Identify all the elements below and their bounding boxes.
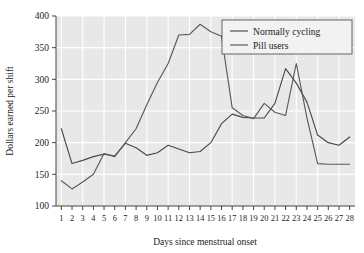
x-tick-label: 16 xyxy=(217,214,225,223)
chart-legend: Normally cycling Pill users xyxy=(222,20,352,54)
x-tick-label: 20 xyxy=(260,214,268,223)
x-tick-label: 28 xyxy=(345,214,353,223)
legend-label-pill-users: Pill users xyxy=(253,40,289,51)
x-tick-label: 7 xyxy=(123,214,127,223)
x-tick-label: 10 xyxy=(153,214,161,223)
chart-figure: 100150200250300350400 123456789101112131… xyxy=(0,0,364,253)
x-tick-label: 21 xyxy=(271,214,279,223)
y-tick-label: 100 xyxy=(35,201,50,211)
y-tick-label: 200 xyxy=(35,138,50,148)
legend-label-normally-cycling: Normally cycling xyxy=(253,26,321,37)
x-tick-label: 13 xyxy=(185,214,193,223)
x-tick-label: 25 xyxy=(313,214,321,223)
x-tick-label: 6 xyxy=(113,214,117,223)
x-tick-label: 3 xyxy=(81,214,85,223)
line-chart: 100150200250300350400 123456789101112131… xyxy=(0,0,364,253)
x-tick-label: 14 xyxy=(196,214,205,223)
x-tick-label: 15 xyxy=(207,214,215,223)
y-axis-title: Dollars earned per shift xyxy=(5,66,15,156)
y-tick-label: 250 xyxy=(35,106,50,116)
x-axis-title: Days since menstrual onset xyxy=(153,237,257,247)
x-tick-label: 27 xyxy=(335,214,343,223)
x-tick-label: 5 xyxy=(102,214,106,223)
x-tick-label: 2 xyxy=(70,214,74,223)
x-tick-label: 9 xyxy=(145,214,149,223)
x-tick-label: 23 xyxy=(292,214,300,223)
x-tick-label: 26 xyxy=(324,214,332,223)
x-tick-label: 11 xyxy=(164,214,172,223)
y-tick-label: 400 xyxy=(35,11,50,21)
x-tick-label: 22 xyxy=(281,214,289,223)
x-tick-label: 24 xyxy=(303,214,312,223)
x-tick-label: 18 xyxy=(239,214,247,223)
y-tick-label: 300 xyxy=(35,75,50,85)
y-tick-label: 150 xyxy=(35,170,50,180)
x-tick-label: 19 xyxy=(249,214,257,223)
x-tick-label: 12 xyxy=(175,214,183,223)
x-tick-label: 17 xyxy=(228,214,236,223)
x-tick-label: 1 xyxy=(59,214,63,223)
x-tick-label: 8 xyxy=(134,214,138,223)
y-tick-label: 350 xyxy=(35,43,50,53)
